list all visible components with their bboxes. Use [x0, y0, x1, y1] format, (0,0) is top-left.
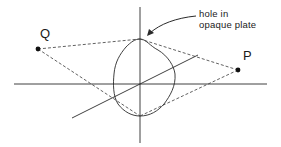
point-p-label: P [243, 48, 252, 63]
annotation-text: hole in opaque plate [199, 9, 256, 30]
point-p-dot [236, 68, 241, 73]
annotation-arrow-icon [150, 16, 196, 33]
annotation-line-2: opaque plate [199, 20, 256, 31]
diagonal-axis [72, 55, 198, 118]
point-q-dot [36, 47, 41, 52]
dashed-rays [38, 39, 238, 116]
point-q-label: Q [40, 26, 50, 41]
annotation-line-1: hole in [199, 9, 256, 20]
